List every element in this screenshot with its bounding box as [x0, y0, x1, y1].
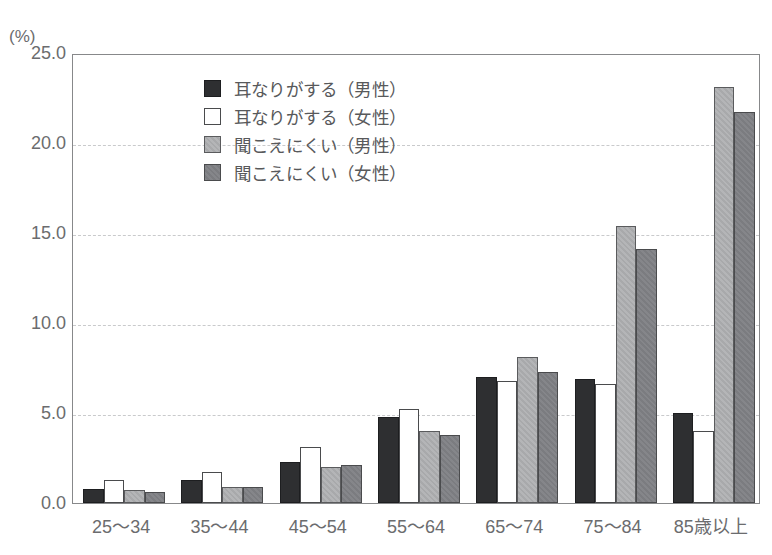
bar [145, 492, 166, 503]
bar [693, 431, 714, 503]
legend-swatch-icon [204, 136, 221, 153]
bar [734, 112, 755, 503]
bars-layer [73, 55, 759, 503]
bar [714, 87, 735, 503]
bar-chart: (%) 0.05.010.015.020.025.0 25〜3435〜4445〜… [0, 0, 772, 555]
legend-label: 聞こえにくい（女性） [234, 160, 406, 185]
bar [575, 379, 596, 503]
legend-swatch-icon [204, 108, 221, 125]
bar-group [83, 55, 165, 503]
legend-item: 聞こえにくい（男性） [204, 130, 406, 158]
bar [222, 487, 243, 503]
bar [280, 462, 301, 503]
bar [517, 357, 538, 503]
bar [616, 226, 637, 503]
bar [181, 480, 202, 503]
bar [124, 490, 145, 503]
bar [538, 372, 559, 503]
legend-swatch-icon [204, 80, 221, 97]
y-axis-tick-label: 20.0 [0, 133, 66, 154]
bar [300, 447, 321, 503]
legend-item: 耳なりがする（男性） [204, 74, 406, 102]
bar [83, 489, 104, 503]
legend-item: 耳なりがする（女性） [204, 102, 406, 130]
y-axis-tick-label: 10.0 [0, 313, 66, 334]
x-axis-tick-label: 55〜64 [367, 512, 465, 538]
x-axis-tick-label: 25〜34 [72, 512, 170, 538]
bar [321, 467, 342, 503]
legend-item: 聞こえにくい（女性） [204, 158, 406, 186]
legend-swatch-icon [204, 164, 221, 181]
x-axis-tick-label: 45〜54 [269, 512, 367, 538]
x-axis-tick-label: 65〜74 [465, 512, 563, 538]
bar [202, 472, 223, 503]
bar-group [673, 55, 755, 503]
bar [378, 417, 399, 503]
legend-label: 耳なりがする（男性） [234, 76, 406, 101]
bar [419, 431, 440, 503]
x-axis-tick-label: 85歳以上 [662, 512, 760, 538]
y-axis-tick-label: 5.0 [0, 403, 66, 424]
bar [673, 413, 694, 503]
bar [104, 480, 125, 503]
bar [497, 381, 518, 503]
bar [399, 409, 420, 503]
bar [636, 249, 657, 503]
bar [476, 377, 497, 503]
plot-area [72, 54, 760, 504]
bar-group [476, 55, 558, 503]
bar [595, 384, 616, 503]
bar [341, 465, 362, 503]
bar-group [575, 55, 657, 503]
bar [440, 435, 461, 503]
bar [243, 487, 264, 503]
x-axis-tick-label: 35〜44 [170, 512, 268, 538]
x-axis-tick-label: 75〜84 [563, 512, 661, 538]
y-axis-tick-label: 15.0 [0, 223, 66, 244]
legend-label: 耳なりがする（女性） [234, 104, 406, 129]
legend-label: 聞こえにくい（男性） [234, 132, 406, 157]
y-axis-tick-label: 0.0 [0, 493, 66, 514]
y-axis-tick-label: 25.0 [0, 43, 66, 64]
chart-legend: 耳なりがする（男性） 耳なりがする（女性） 聞こえにくい（男性） 聞こえにくい（… [204, 74, 406, 186]
